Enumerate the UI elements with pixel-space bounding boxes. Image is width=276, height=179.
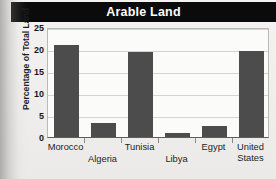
x-axis-category-label: Algeria: [88, 154, 117, 165]
chart-title-band: Arable Land: [11, 2, 276, 22]
y-axis-tick-labels: 0510152025: [26, 28, 44, 138]
bar: [128, 52, 153, 137]
bars-group: [48, 29, 268, 137]
x-axis-category-label: Morocco: [48, 142, 84, 153]
chart-title: Arable Land: [11, 2, 276, 22]
bar: [54, 45, 79, 137]
arable-land-chart-figure: Arable Land Percentage of Total Land 051…: [0, 0, 276, 179]
y-axis-tick-label: 20: [26, 45, 44, 55]
y-axis-tick-label: 10: [26, 89, 44, 99]
bar: [91, 123, 116, 137]
bar: [239, 51, 264, 137]
plot-area: [47, 28, 269, 138]
y-axis-tick-label: 15: [26, 67, 44, 77]
x-axis-category-label: Tunisia: [125, 142, 155, 153]
bar: [202, 126, 227, 137]
y-axis-tick-label: 25: [26, 23, 44, 33]
y-axis-tick-label: 0: [26, 133, 44, 143]
x-axis-category-label: Egypt: [202, 142, 226, 153]
bar: [165, 133, 190, 137]
x-axis-category-label-line: States: [237, 153, 264, 164]
x-axis-category-labels: MoroccoAlgeriaTunisiaLibyaEgyptUnitedSta…: [47, 142, 276, 176]
x-axis-category-label-line: United: [237, 142, 264, 152]
x-axis-category-label: Libya: [165, 154, 187, 165]
y-axis-tick-label: 5: [26, 111, 44, 121]
x-axis-category-label: UnitedStates: [237, 142, 264, 164]
